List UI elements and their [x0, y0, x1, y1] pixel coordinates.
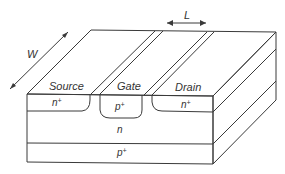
source-doping-label: n+ [52, 97, 62, 108]
width-label: W [27, 48, 39, 60]
jfet-diagram: W L Source Gate Drain n+ p+ n+ n p+ [0, 0, 285, 174]
right-drain-boundary [213, 49, 276, 112]
gate-label: Gate [117, 80, 141, 92]
right-substrate-boundary [213, 81, 276, 144]
substrate-boundary [27, 143, 213, 144]
length-label: L [184, 9, 190, 21]
source-label: Source [49, 80, 84, 92]
substrate-doping-label: p+ [116, 147, 127, 158]
channel-doping-label: n [117, 124, 123, 135]
right-face [213, 32, 276, 164]
gate-doping-label: p+ [114, 101, 125, 112]
drain-doping-label: n+ [181, 99, 191, 110]
drain-label: Drain [175, 81, 201, 93]
